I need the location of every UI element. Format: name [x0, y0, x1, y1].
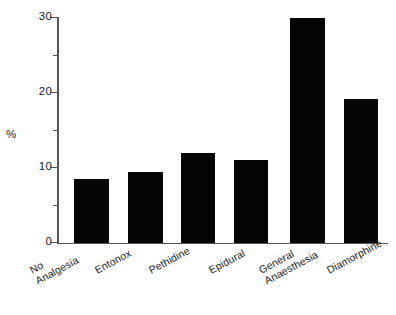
- bar-pethidine: [181, 153, 215, 243]
- bar-no-analgesia: [74, 179, 109, 243]
- bar-chart: % 30 20 10 0 No Analgesia Entonox Pethid…: [0, 0, 396, 315]
- bar-entonox: [128, 172, 163, 243]
- bar-epidural: [234, 160, 268, 243]
- bar-general-anaesthesia: [290, 18, 325, 244]
- bar-diamorphine: [344, 99, 378, 243]
